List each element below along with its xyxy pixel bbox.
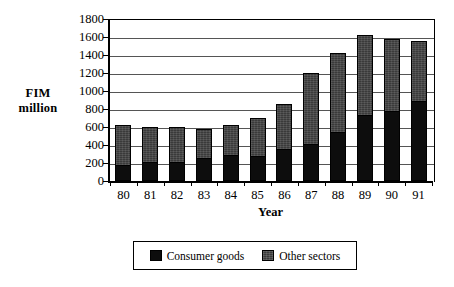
- bar-segment-consumer-goods[interactable]: [143, 162, 157, 180]
- stacked-bar[interactable]: [169, 127, 185, 181]
- stacked-bar[interactable]: [250, 118, 266, 181]
- x-axis-tick-mark: [137, 181, 138, 186]
- y-axis-tick-label: 1800: [68, 13, 104, 25]
- x-axis-tick-label: 90: [378, 188, 405, 202]
- y-axis-tick-label: 1400: [68, 49, 104, 61]
- bar-group[interactable]: [164, 19, 191, 181]
- x-axis-tick-labels: 808182838485868788899091: [110, 188, 432, 204]
- x-axis-tick-mark: [271, 181, 272, 186]
- x-axis-tick-mark: [352, 181, 353, 186]
- bar-segment-consumer-goods[interactable]: [358, 115, 372, 180]
- stacked-bar[interactable]: [196, 129, 212, 181]
- x-axis-tick-label: 84: [217, 188, 244, 202]
- y-axis-tick-labels: 020040060080010001200140016001800: [64, 19, 104, 181]
- x-axis-tick-mark: [164, 181, 165, 186]
- stacked-bar[interactable]: [276, 104, 292, 181]
- stacked-bar[interactable]: [115, 125, 131, 181]
- bar-group[interactable]: [352, 19, 379, 181]
- bar-segment-other-sectors[interactable]: [304, 74, 318, 144]
- bar-group[interactable]: [378, 19, 405, 181]
- bar-segment-other-sectors[interactable]: [385, 40, 399, 111]
- bar-group[interactable]: [325, 19, 352, 181]
- bar-segment-consumer-goods[interactable]: [385, 111, 399, 180]
- legend-swatch-consumer: [150, 250, 162, 261]
- x-axis-tick-label: 88: [325, 188, 352, 202]
- y-axis-tick-label: 0: [68, 175, 104, 187]
- chart-figure: FIM million 0200400600800100012001400160…: [0, 0, 454, 287]
- x-axis-tick-label: 81: [137, 188, 164, 202]
- bar-group[interactable]: [110, 19, 137, 181]
- stacked-bar[interactable]: [411, 41, 427, 181]
- bar-segment-consumer-goods[interactable]: [197, 158, 211, 180]
- legend-entry[interactable]: Consumer goods: [150, 250, 245, 262]
- bar-group[interactable]: [244, 19, 271, 181]
- bar-segment-consumer-goods[interactable]: [116, 165, 130, 180]
- y-axis-title-line-2: million: [6, 101, 70, 116]
- bar-segment-consumer-goods[interactable]: [224, 155, 238, 180]
- x-axis-tick-marks: [110, 181, 432, 187]
- bar-group[interactable]: [298, 19, 325, 181]
- legend-label: Other sectors: [279, 250, 340, 262]
- x-axis-tick-label: 83: [191, 188, 218, 202]
- legend-swatch-other: [262, 250, 274, 261]
- x-axis-tick-mark: [191, 181, 192, 186]
- y-axis-tick-label: 400: [68, 139, 104, 151]
- bar-group[interactable]: [191, 19, 218, 181]
- bar-segment-other-sectors[interactable]: [116, 126, 130, 165]
- x-axis-tick-mark: [110, 181, 111, 186]
- y-axis-tick-label: 1200: [68, 67, 104, 79]
- bar-segment-other-sectors[interactable]: [197, 130, 211, 158]
- bar-segment-other-sectors[interactable]: [412, 42, 426, 101]
- x-axis-tick-mark: [244, 181, 245, 186]
- bar-group[interactable]: [137, 19, 164, 181]
- y-axis-title: FIM million: [6, 86, 70, 116]
- bar-series-container: [110, 19, 432, 181]
- bar-segment-other-sectors[interactable]: [224, 126, 238, 155]
- x-axis-tick-mark: [298, 181, 299, 186]
- bar-segment-consumer-goods[interactable]: [412, 101, 426, 180]
- y-axis-tick-label: 800: [68, 103, 104, 115]
- bar-segment-other-sectors[interactable]: [143, 128, 157, 162]
- x-axis-tick-label: 82: [164, 188, 191, 202]
- y-axis-tick-label: 200: [68, 157, 104, 169]
- x-axis-tick-label: 85: [244, 188, 271, 202]
- bar-segment-other-sectors[interactable]: [331, 54, 345, 132]
- bar-segment-consumer-goods[interactable]: [277, 149, 291, 180]
- stacked-bar[interactable]: [142, 127, 158, 181]
- bar-group[interactable]: [271, 19, 298, 181]
- x-axis-tick-mark: [405, 181, 406, 186]
- x-axis-tick-label: 91: [405, 188, 432, 202]
- chart-legend: Consumer goodsOther sectors: [133, 241, 357, 270]
- stacked-bar[interactable]: [357, 35, 373, 181]
- stacked-bar[interactable]: [303, 73, 319, 181]
- stacked-bar[interactable]: [223, 125, 239, 181]
- x-axis-tick-label: 80: [110, 188, 137, 202]
- x-axis-tick-mark: [432, 181, 433, 186]
- bar-segment-other-sectors[interactable]: [277, 105, 291, 149]
- y-axis-tick-label: 1000: [68, 85, 104, 97]
- bar-segment-other-sectors[interactable]: [251, 119, 265, 156]
- x-axis-title: Year: [108, 205, 433, 220]
- stacked-bar[interactable]: [330, 53, 346, 181]
- bar-segment-other-sectors[interactable]: [358, 36, 372, 115]
- bar-segment-other-sectors[interactable]: [170, 128, 184, 162]
- bar-segment-consumer-goods[interactable]: [170, 162, 184, 180]
- x-axis-tick-label: 86: [271, 188, 298, 202]
- x-axis-tick-label: 87: [298, 188, 325, 202]
- x-axis-tick-mark: [217, 181, 218, 186]
- x-axis-tick-mark: [378, 181, 379, 186]
- bar-group[interactable]: [405, 19, 432, 181]
- y-axis-tick-label: 1600: [68, 31, 104, 43]
- bar-segment-consumer-goods[interactable]: [251, 156, 265, 180]
- bar-segment-consumer-goods[interactable]: [331, 132, 345, 180]
- y-axis-title-line-1: FIM: [6, 86, 70, 101]
- y-axis-tick-label: 600: [68, 121, 104, 133]
- x-axis-tick-label: 89: [352, 188, 379, 202]
- legend-label: Consumer goods: [167, 250, 245, 262]
- bar-segment-consumer-goods[interactable]: [304, 144, 318, 180]
- bar-group[interactable]: [217, 19, 244, 181]
- stacked-bar[interactable]: [384, 39, 400, 181]
- x-axis-tick-mark: [325, 181, 326, 186]
- legend-entry[interactable]: Other sectors: [262, 250, 340, 262]
